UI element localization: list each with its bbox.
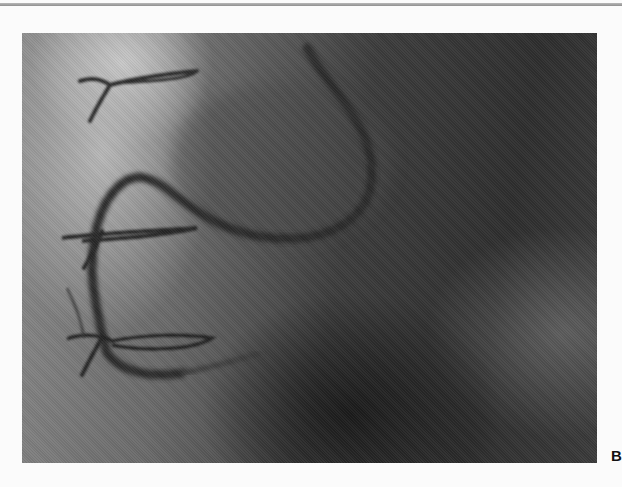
panel-label: B: [611, 447, 622, 464]
angiogram-image: [22, 33, 597, 463]
top-divider: [0, 3, 622, 6]
image-grain: [22, 33, 597, 463]
